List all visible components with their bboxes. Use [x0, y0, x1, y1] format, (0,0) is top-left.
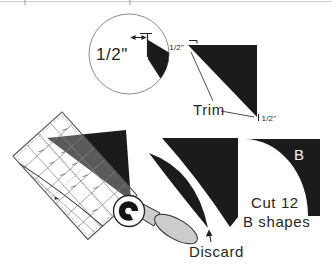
discard-label: Discard [189, 243, 244, 260]
result-step: B Cut 12 B shapes [243, 139, 320, 230]
trim-leader-line [221, 111, 254, 117]
discard-arrow-icon [206, 230, 213, 237]
top-corner-measure: 1/2" [169, 43, 184, 52]
magnifier-detail: 1/2" [89, 14, 178, 94]
page-crop-strip [0, 0, 332, 5]
piece-letter-label: B [294, 146, 305, 163]
bottom-corner-measure: 1/2" [262, 114, 277, 123]
trim-label: Trim [193, 101, 225, 118]
diagram-canvas: 1/2" 1/2" 1/2" Trim [0, 0, 332, 265]
cut-instruction-line2: B shapes [243, 213, 310, 230]
cut-instruction-line1: Cut 12 [251, 194, 299, 211]
trim-step: 1/2" 1/2" Trim [169, 41, 276, 124]
cutter-blade [114, 196, 145, 227]
magnifier-measure-label: 1/2" [96, 45, 128, 64]
